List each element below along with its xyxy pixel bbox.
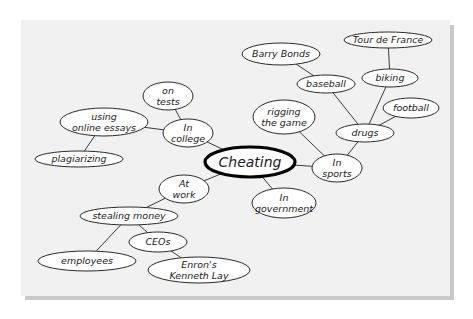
node-label: In <box>333 157 342 168</box>
nodes: CheatingIncollegeontestsusingonline essa… <box>35 32 439 283</box>
node-label: Barry Bonds <box>252 48 310 59</box>
node-in-government: Ingovernment <box>252 188 316 218</box>
node-label: college <box>171 133 205 144</box>
node-at-work: Atwork <box>159 175 209 203</box>
node-label: football <box>393 102 429 113</box>
node-biking: biking <box>362 69 418 87</box>
node-label: Tour de France <box>353 34 424 45</box>
node-drugs: drugs <box>336 124 394 142</box>
node-rigging-the-game: riggingthe game <box>253 100 315 134</box>
node-label: CEOs <box>145 236 170 247</box>
node-label: Cheating <box>219 154 282 170</box>
node-on-tests: ontests <box>143 82 193 110</box>
node-label: online essays <box>72 122 136 133</box>
node-label: using <box>91 111 117 122</box>
node-barry-bonds: Barry Bonds <box>242 43 320 65</box>
node-tour-de-france: Tour de France <box>344 32 432 48</box>
node-label: on <box>162 85 174 96</box>
node-label: the game <box>261 117 307 128</box>
node-label: sports <box>322 168 351 179</box>
node-football: football <box>383 98 439 118</box>
node-label: drugs <box>352 127 379 138</box>
node-label: rigging <box>267 106 300 117</box>
node-label: At <box>178 178 190 189</box>
node-baseball: baseball <box>297 75 355 93</box>
node-label: In <box>280 192 289 203</box>
node-label: baseball <box>306 78 346 89</box>
node-label: tests <box>156 96 179 107</box>
node-label: work <box>173 189 196 200</box>
node-label: In <box>184 122 193 133</box>
node-using-online-essays: usingonline essays <box>60 108 148 136</box>
node-label: employees <box>61 255 113 266</box>
node-ceos: CEOs <box>129 232 187 252</box>
node-plagiarizing: plagiarizing <box>35 151 123 167</box>
node-stealing-money: stealing money <box>80 207 178 225</box>
mind-map: CheatingIncollegeontestsusingonline essa… <box>0 0 473 319</box>
node-in-sports: Insports <box>312 154 362 182</box>
node-enrons-kenneth-lay: Enron'sKenneth Lay <box>148 257 250 283</box>
node-label: plagiarizing <box>50 153 106 164</box>
node-label: stealing money <box>92 210 166 221</box>
node-employees: employees <box>38 251 136 271</box>
node-label: Kenneth Lay <box>169 270 229 281</box>
node-label: biking <box>376 72 405 83</box>
node-label: government <box>255 203 314 214</box>
node-label: Enron's <box>181 259 216 270</box>
central-node-cheating: Cheating <box>205 147 295 177</box>
node-in-college: Incollege <box>163 119 213 147</box>
